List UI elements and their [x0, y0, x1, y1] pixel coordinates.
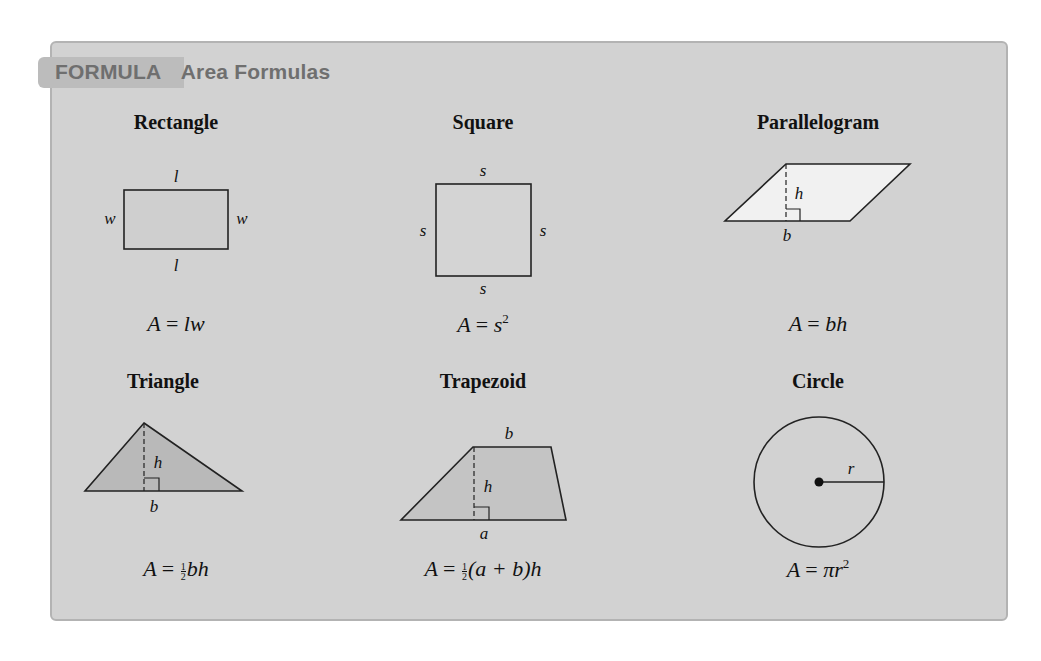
formula-rectangle: A = lw — [46, 311, 306, 337]
formula-square: A = s2 — [353, 311, 613, 338]
triangle-label-height: h — [154, 453, 163, 472]
formula-triangle: A = 12bh — [46, 556, 306, 582]
rect-label-right: w — [236, 209, 248, 228]
triangle-diagram: h b — [85, 423, 242, 516]
trapezoid-diagram: b h a — [401, 424, 566, 543]
triangle-label-base: b — [150, 497, 159, 516]
square-label-top: s — [480, 161, 487, 180]
parallelogram-label-height: h — [795, 184, 804, 203]
square-label-left: s — [420, 221, 427, 240]
parallelogram-diagram: h b — [725, 164, 910, 245]
trapezoid-label-height: h — [484, 477, 493, 496]
rect-label-top: l — [174, 167, 179, 186]
square-diagram: s s s s — [420, 161, 547, 298]
square-label-bottom: s — [480, 279, 487, 298]
trapezoid-label-top: b — [505, 424, 514, 443]
rectangle-diagram: l l w w — [104, 167, 248, 275]
formula-trapezoid: A = 12(a + b)h — [353, 556, 613, 582]
circle-diagram: r — [754, 417, 884, 547]
rect-label-bottom: l — [174, 256, 179, 275]
formula-parallelogram: A = bh — [688, 311, 948, 337]
circle-label-radius: r — [848, 459, 855, 478]
trapezoid-label-bottom: a — [480, 524, 489, 543]
parallelogram-label-base: b — [783, 226, 792, 245]
formula-circle: A = πr2 — [688, 556, 948, 583]
square-label-right: s — [540, 221, 547, 240]
rect-label-left: w — [104, 209, 116, 228]
